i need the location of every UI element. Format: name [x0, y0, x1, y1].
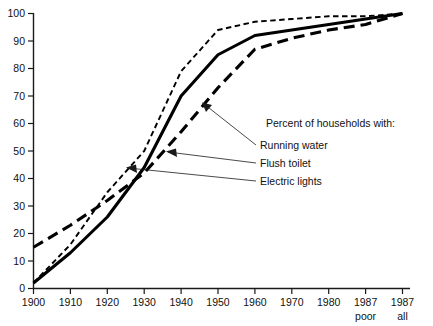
legend-title: Percent of households with:	[266, 117, 395, 129]
y-tick-label-10: 10	[13, 255, 25, 267]
y-tick-label-80: 80	[13, 62, 25, 74]
y-tick-label-40: 40	[13, 172, 25, 184]
series-flush-toilet	[34, 14, 403, 284]
x-tick-sublabel-all: all	[397, 310, 408, 322]
leader-line-running-water	[204, 104, 256, 145]
x-tick-label-1980: 1980	[317, 296, 341, 308]
y-tick-label-100: 100	[7, 7, 25, 19]
x-tick-label-1910: 1910	[59, 296, 83, 308]
y-tick-label-20: 20	[13, 227, 25, 239]
x-tick-label-1940: 1940	[169, 296, 193, 308]
leader-line-electric-lights	[128, 168, 256, 181]
x-tick-label-1970: 1970	[280, 296, 304, 308]
chart-container: 0 10 20 30 40 50 60 70 80 90 100	[0, 0, 433, 326]
legend-item-flush-toilet: Flush toilet	[260, 157, 311, 169]
x-tick-label-1900: 1900	[22, 296, 46, 308]
series-running-water	[34, 14, 403, 248]
x-tick-sublabel-poor: poor	[355, 310, 377, 322]
y-tick-label-90: 90	[13, 35, 25, 47]
x-axis-labels: 1900 1910 1920 1930 1940 1950 1960 1970 …	[22, 296, 415, 322]
y-axis-ticks	[28, 14, 34, 289]
x-tick-label-1987-all: 1987	[391, 296, 415, 308]
x-tick-label-1920: 1920	[96, 296, 120, 308]
x-tick-label-1950: 1950	[206, 296, 230, 308]
line-chart: 0 10 20 30 40 50 60 70 80 90 100	[0, 0, 433, 326]
x-tick-label-1930: 1930	[133, 296, 157, 308]
x-tick-label-1987-poor: 1987	[354, 296, 378, 308]
x-tick-label-1960: 1960	[243, 296, 267, 308]
leader-line-flush-toilet	[168, 152, 256, 163]
arrowhead-flush-toilet	[166, 149, 177, 158]
y-tick-label-60: 60	[13, 117, 25, 129]
y-tick-label-0: 0	[19, 282, 25, 294]
legend-item-electric-lights: Electric lights	[260, 175, 322, 187]
chart-legend: Percent of households with: Running wate…	[260, 117, 395, 187]
y-axis-labels: 0 10 20 30 40 50 60 70 80 90 100	[7, 7, 25, 294]
x-axis-ticks	[34, 289, 403, 295]
y-tick-label-70: 70	[13, 90, 25, 102]
legend-item-running-water: Running water	[260, 139, 328, 151]
y-tick-label-50: 50	[13, 145, 25, 157]
y-tick-label-30: 30	[13, 200, 25, 212]
